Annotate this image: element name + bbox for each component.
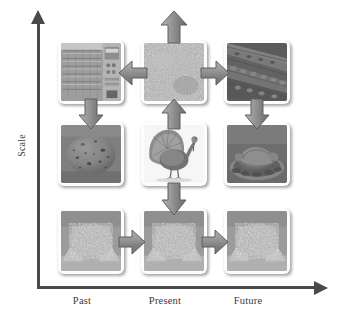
cell-r1-c1-card <box>141 122 207 186</box>
y-axis-label: Scale <box>16 116 27 176</box>
cell-r2-c2-card <box>224 208 290 274</box>
hands-holding-feed-photo-1 <box>61 211 121 271</box>
arrow-top-center-to-right-icon <box>200 60 230 86</box>
arrow-left-col-down-icon <box>78 98 104 130</box>
grain-feed-pile-photo <box>144 43 204 101</box>
cell-r0-c0-card <box>58 40 124 104</box>
x-axis-tick-label-present: Present <box>125 295 205 306</box>
cell-r2-c1-card <box>141 208 207 274</box>
x-axis-tick-label-future: Future <box>208 295 288 306</box>
hands-holding-feed-photo-3 <box>227 211 287 271</box>
arrow-top-center-to-left-icon <box>118 60 148 86</box>
cell-r1-c0-card <box>58 122 124 186</box>
y-axis-arrowhead-icon <box>31 10 45 24</box>
hatchery-incubator-photo <box>61 43 121 101</box>
cell-r0-c2-card <box>224 40 290 104</box>
x-axis-arrowhead-icon <box>314 281 328 295</box>
live-turkey-photo <box>144 125 204 183</box>
hands-holding-feed-photo-2 <box>144 211 204 271</box>
arrow-center-mid-down-icon <box>161 182 187 216</box>
arrow-top-center-up-icon <box>160 10 188 44</box>
x-axis-line <box>37 286 318 289</box>
y-axis-line <box>37 22 40 289</box>
poultry-house-interior-photo <box>227 43 287 101</box>
arrow-bottom-center-right-icon <box>201 229 229 255</box>
speckled-egg-photo <box>61 125 121 183</box>
figure-canvas: Scale Past Present Future <box>0 0 341 324</box>
arrow-bottom-left-right-icon <box>118 229 146 255</box>
x-axis-tick-label-past: Past <box>42 295 122 306</box>
arrow-center-mid-up-icon <box>161 98 187 130</box>
arrow-right-col-down-icon <box>244 98 270 130</box>
roast-turkey-platter-photo <box>227 125 287 183</box>
cell-r1-c2-card <box>224 122 290 186</box>
cell-r2-c0-card <box>58 208 124 274</box>
cell-r0-c1-card <box>141 40 207 104</box>
